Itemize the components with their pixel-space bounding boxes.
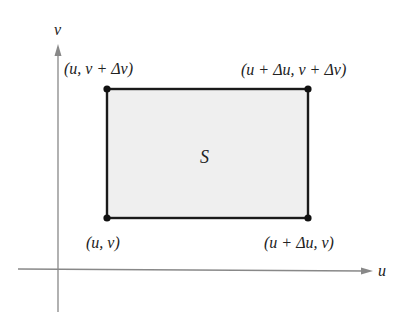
v-axis-label: v [54, 22, 61, 38]
corner-label-bottom-right: (u + Δu, v) [264, 235, 334, 251]
v-axis-arrow-icon [55, 44, 62, 56]
u-axis-label: u [378, 263, 386, 279]
corner-point-bottom-right [304, 214, 311, 221]
u-axis [18, 269, 365, 271]
corner-label-top-left: (u, v + Δv) [64, 61, 133, 77]
corner-point-top-left [103, 85, 110, 92]
corner-point-bottom-left [103, 214, 110, 221]
corner-label-bottom-left: (u, v) [86, 235, 120, 251]
region-label: S [200, 148, 209, 166]
corner-label-top-right: (u + Δu, v + Δv) [241, 62, 346, 78]
corner-point-top-right [304, 85, 311, 92]
u-axis-arrow-icon [361, 268, 373, 275]
